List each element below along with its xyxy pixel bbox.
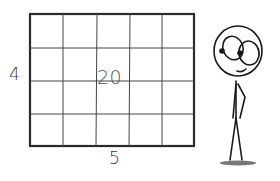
diagram-canvas — [0, 0, 280, 181]
leg-left — [230, 118, 236, 160]
height-label: 4 — [9, 64, 20, 84]
stick-figure — [214, 26, 262, 166]
arm-right — [238, 84, 245, 118]
left-eye — [219, 33, 246, 62]
width-label: 5 — [109, 148, 120, 168]
smile — [237, 69, 246, 72]
area-label: 20 — [97, 66, 122, 88]
ground-shadow — [220, 161, 256, 166]
leg-right — [236, 118, 242, 160]
